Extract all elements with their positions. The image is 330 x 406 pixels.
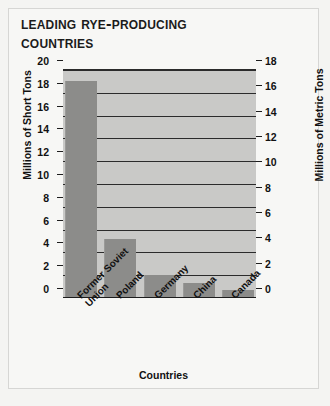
bar <box>65 81 97 298</box>
y-axis-right-tick-label: 14 <box>265 107 291 117</box>
y-axis-right-tick-mark <box>256 60 262 61</box>
y-axis-left-tick-mark <box>57 288 63 289</box>
y-axis-left-tick-mark <box>57 128 63 129</box>
y-axis-left-tick-mark <box>57 265 63 266</box>
y-axis-right-tick-mark <box>256 187 262 188</box>
y-axis-right-tick-mark <box>256 111 262 112</box>
plot-area <box>63 69 256 298</box>
y-axis-left-tick-mark <box>57 106 63 107</box>
y-axis-left-tick-mark <box>57 174 63 175</box>
y-axis-right-tick-label: 16 <box>265 81 291 91</box>
chart-panel: Leading Rye-ProducingCountries 201816141… <box>8 8 319 389</box>
chart-title-line-1: Leading Rye-Producing <box>21 14 311 33</box>
y-axis-left-label: Millions of Short Tons <box>21 55 33 195</box>
y-axis-right-tick-label: 8 <box>265 183 291 193</box>
y-axis-left-tick-mark <box>57 83 63 84</box>
y-axis-left-tick-label: 4 <box>23 238 49 248</box>
y-axis-left-tick-mark <box>57 220 63 221</box>
y-axis-right-tick-label: 4 <box>265 233 291 243</box>
chart-title-line-2: Countries <box>21 33 311 52</box>
y-axis-right-label: Millions of Metric Tons <box>313 55 325 195</box>
y-axis-left-tick-label: 0 <box>23 284 49 294</box>
y-axis-right-tick-mark <box>256 161 262 162</box>
bar-series <box>63 70 256 298</box>
y-axis-left-tick-mark <box>57 197 63 198</box>
y-axis-left-tick-mark <box>57 151 63 152</box>
y-axis-left-tick-label: 6 <box>23 216 49 226</box>
y-axis-right-tick-label: 0 <box>265 284 291 294</box>
y-axis-left-tick-mark <box>57 60 63 61</box>
y-axis-right-tick-label: 2 <box>265 259 291 269</box>
y-axis-right-tick-label: 12 <box>265 132 291 142</box>
x-axis-label: Countries <box>8 369 319 381</box>
y-axis-right-tick-mark <box>256 136 262 137</box>
y-axis-right-tick-label: 18 <box>265 56 291 66</box>
y-axis-left-tick-mark <box>57 242 63 243</box>
y-axis-right-tick-mark <box>256 263 262 264</box>
y-axis-right-tick-mark <box>256 237 262 238</box>
y-axis-right-tick-label: 6 <box>265 208 291 218</box>
y-axis-right-tick-mark <box>256 85 262 86</box>
chart-page: Leading Rye-ProducingCountries 201816141… <box>0 0 330 406</box>
y-axis-right-tick-mark <box>256 212 262 213</box>
y-axis-left-tick-label: 2 <box>23 261 49 271</box>
y-axis-right-tick-label: 10 <box>265 157 291 167</box>
y-axis-right-tick-mark <box>256 288 262 289</box>
chart-title: Leading Rye-ProducingCountries <box>21 14 311 52</box>
